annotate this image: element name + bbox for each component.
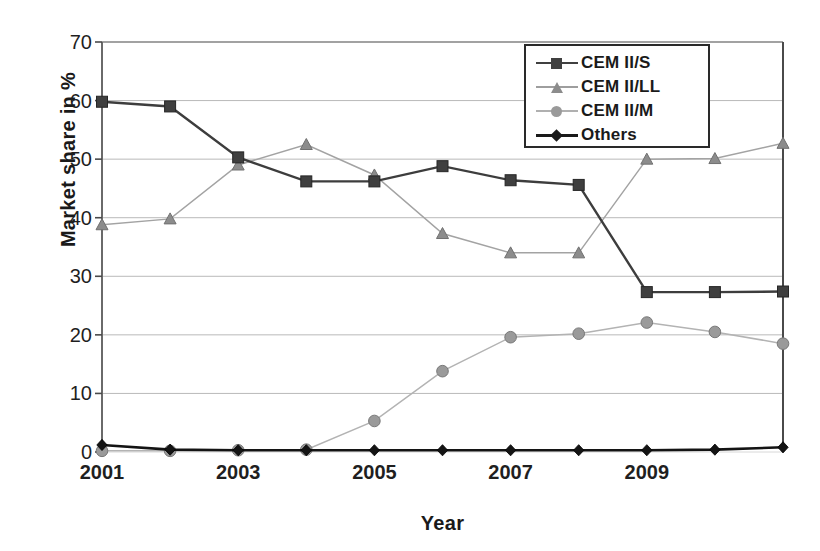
data-point <box>505 175 516 186</box>
data-point <box>437 365 449 377</box>
series-others <box>97 439 788 455</box>
data-point <box>573 328 585 340</box>
line-chart: Market share in % Year 010203040506070 2… <box>0 0 820 551</box>
data-point <box>369 445 379 456</box>
legend-marker-triangle-icon <box>536 80 578 94</box>
data-point <box>165 101 176 112</box>
data-point <box>641 317 653 329</box>
data-point <box>777 338 789 350</box>
legend-marker-diamond-icon <box>536 128 578 142</box>
data-point <box>437 161 448 172</box>
data-point <box>437 445 447 456</box>
legend-item-cem-ii-m: CEM II/M <box>526 99 708 123</box>
legend-label: CEM II/S <box>581 53 651 73</box>
legend-marker-circle-icon <box>536 104 578 118</box>
data-point <box>505 445 515 456</box>
data-point <box>641 287 652 298</box>
legend-label: Others <box>581 125 637 145</box>
data-point <box>301 176 312 187</box>
data-point <box>573 179 584 190</box>
series-cem-ii-m <box>96 317 789 457</box>
data-point <box>233 152 244 163</box>
data-point <box>574 445 584 456</box>
data-point <box>505 331 517 343</box>
data-point <box>300 139 312 150</box>
chart-legend: CEM II/S CEM II/LL CEM II/M Others <box>524 44 710 148</box>
legend-label: CEM II/M <box>581 101 653 121</box>
data-point <box>710 444 720 455</box>
legend-marker-square-icon <box>536 56 578 70</box>
legend-label: CEM II/LL <box>581 77 660 97</box>
data-point <box>369 176 380 187</box>
data-point <box>369 415 381 427</box>
data-point <box>778 286 789 297</box>
legend-item-others: Others <box>526 123 708 147</box>
data-point <box>709 287 720 298</box>
data-point <box>97 96 108 107</box>
series-line <box>102 323 783 451</box>
data-point <box>164 213 176 224</box>
data-point <box>778 442 788 453</box>
data-point <box>642 445 652 456</box>
legend-item-cem-ii-ll: CEM II/LL <box>526 75 708 99</box>
data-point <box>777 137 789 148</box>
series-cem-ii-ll <box>96 137 789 258</box>
data-point <box>709 326 721 338</box>
legend-item-cem-ii-s: CEM II/S <box>526 51 708 75</box>
